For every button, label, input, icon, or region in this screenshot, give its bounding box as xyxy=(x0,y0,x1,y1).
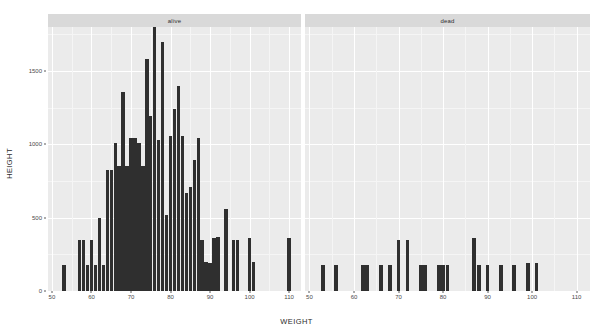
x-tick-label: 70 xyxy=(395,294,402,300)
x-tick-mark xyxy=(353,291,354,293)
histogram-bar xyxy=(212,238,215,291)
gridline-y xyxy=(305,144,590,145)
facet-panel-alive: alive 5060708090100110 xyxy=(48,14,301,291)
x-tick-label: 60 xyxy=(351,294,358,300)
histogram-bar xyxy=(133,138,136,291)
histogram-bar xyxy=(153,27,156,291)
x-tick-label: 110 xyxy=(572,294,582,300)
histogram-bar xyxy=(94,265,97,291)
x-tick-mark xyxy=(131,291,132,293)
histogram-bar xyxy=(185,193,188,291)
gridline-x-minor xyxy=(554,27,555,291)
histogram-bar xyxy=(137,143,140,291)
x-tick-mark xyxy=(487,291,488,293)
histogram-bar xyxy=(477,265,481,291)
gridline-y-minor xyxy=(48,34,301,35)
x-tick-mark xyxy=(210,291,211,293)
x-tick-mark xyxy=(398,291,399,293)
histogram-bar xyxy=(98,218,101,291)
histogram-bar xyxy=(361,265,365,291)
x-tick-label: 90 xyxy=(484,294,491,300)
x-tick-label: 50 xyxy=(49,294,56,300)
x-tick-mark xyxy=(170,291,171,293)
histogram-bar xyxy=(397,240,401,291)
x-axis-title: WEIGHT xyxy=(0,317,593,326)
x-tick-label: 80 xyxy=(440,294,447,300)
histogram-bar xyxy=(117,166,120,291)
histogram-bar xyxy=(173,109,176,291)
plot-area-dead xyxy=(305,27,590,291)
gridline-x-minor xyxy=(230,27,231,291)
histogram-bar xyxy=(379,265,383,291)
gridline-x-minor xyxy=(332,27,333,291)
histogram-bar xyxy=(535,263,539,291)
gridline-x xyxy=(210,27,211,291)
chart-root: HEIGHT 0 500 1000 1500 alive 50607080901… xyxy=(0,0,593,327)
histogram-bar xyxy=(90,240,93,291)
gridline-x xyxy=(354,27,355,291)
gridline-x xyxy=(532,27,533,291)
histogram-bar xyxy=(446,265,450,291)
y-axis-title: HEIGHT xyxy=(2,0,16,327)
x-tick-label: 100 xyxy=(527,294,537,300)
y-tick-label: 0 xyxy=(39,288,42,294)
gridline-x xyxy=(577,27,578,291)
histogram-bar xyxy=(334,265,338,291)
x-tick-label: 70 xyxy=(128,294,135,300)
x-tick-mark xyxy=(91,291,92,293)
y-tick-mark xyxy=(44,291,46,292)
histogram-bar xyxy=(157,140,160,291)
gridline-x-minor xyxy=(72,27,73,291)
histogram-bar xyxy=(189,187,192,291)
y-axis: 0 500 1000 1500 xyxy=(16,14,46,291)
gridline-y-minor xyxy=(305,254,590,255)
strip-dead: dead xyxy=(305,14,590,27)
y-tick-mark xyxy=(44,144,46,145)
histogram-bar xyxy=(232,240,235,291)
histogram-bar xyxy=(177,86,180,291)
x-tick-mark xyxy=(51,291,52,293)
histogram-bar xyxy=(321,265,325,291)
histogram-bar xyxy=(181,136,184,291)
histogram-bar xyxy=(526,263,530,291)
histogram-bar xyxy=(236,240,239,291)
histogram-bar xyxy=(512,265,516,291)
histogram-bar xyxy=(114,143,117,291)
histogram-bar xyxy=(224,209,227,291)
x-tick-mark xyxy=(443,291,444,293)
x-tick-label: 60 xyxy=(88,294,95,300)
gridline-x-minor xyxy=(269,27,270,291)
x-tick-mark xyxy=(289,291,290,293)
histogram-bar xyxy=(388,265,392,291)
histogram-bar xyxy=(472,238,476,291)
histogram-bar xyxy=(161,42,164,291)
strip-alive: alive xyxy=(48,14,301,27)
gridline-x-minor xyxy=(510,27,511,291)
histogram-bar xyxy=(486,265,490,291)
gridline-x-minor xyxy=(465,27,466,291)
histogram-bar xyxy=(82,240,85,291)
strip-label-alive: alive xyxy=(168,18,181,24)
histogram-bar xyxy=(365,265,369,291)
histogram-bar xyxy=(441,265,445,291)
gridline-y xyxy=(305,71,590,72)
y-tick-label: 500 xyxy=(32,215,42,221)
histogram-bar xyxy=(419,265,423,291)
histogram-bar xyxy=(193,160,196,291)
x-tick-label: 80 xyxy=(167,294,174,300)
histogram-bar xyxy=(216,237,219,291)
gridline-y-minor xyxy=(305,34,590,35)
gridline-y xyxy=(48,71,301,72)
histogram-bar xyxy=(78,240,81,291)
y-tick-label: 1000 xyxy=(29,141,42,147)
gridline-x-minor xyxy=(421,27,422,291)
histogram-bar xyxy=(423,265,427,291)
histogram-bar xyxy=(248,238,251,291)
histogram-bar xyxy=(252,262,255,291)
histogram-bar xyxy=(125,166,128,291)
histogram-bar xyxy=(197,138,200,291)
plot-area-alive xyxy=(48,27,301,291)
histogram-bar xyxy=(208,263,211,291)
y-tick-mark xyxy=(44,71,46,72)
histogram-bar xyxy=(499,265,503,291)
